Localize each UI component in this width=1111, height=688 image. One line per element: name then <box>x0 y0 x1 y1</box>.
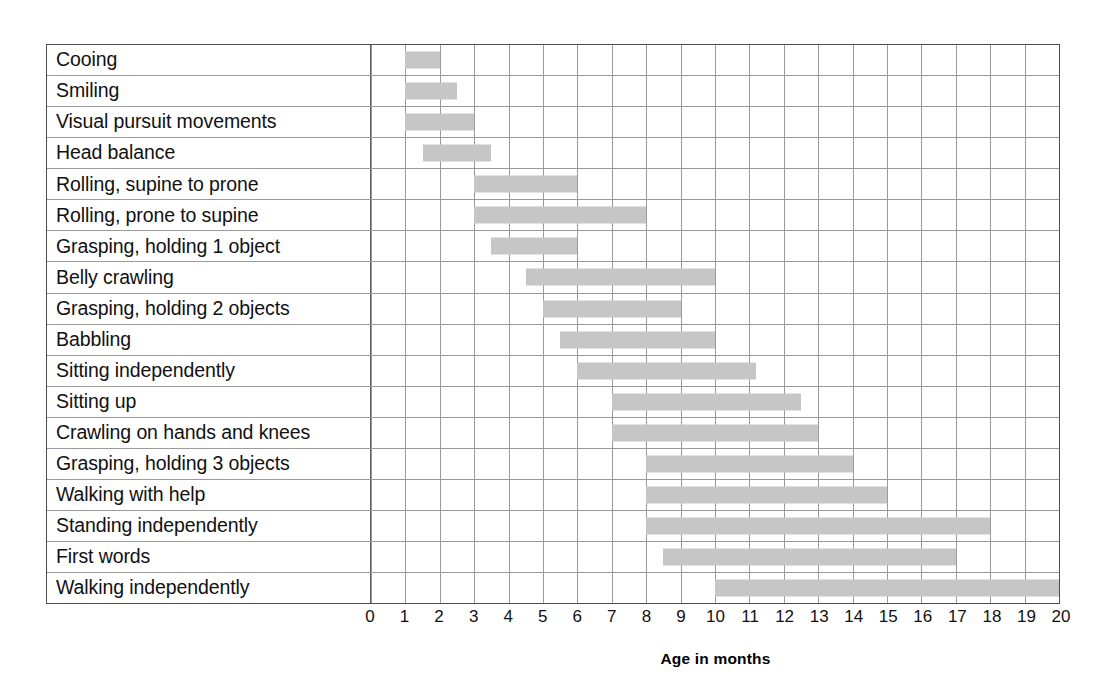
gridline <box>681 45 682 75</box>
gridline <box>784 45 785 75</box>
gridline <box>887 325 888 355</box>
milestone-row: Grasping, holding 3 objects <box>47 449 1059 480</box>
gridline <box>749 294 750 324</box>
gridline <box>921 138 922 168</box>
gridline <box>405 294 406 324</box>
gridline <box>646 107 647 137</box>
gridline <box>474 76 475 106</box>
gridline <box>956 231 957 261</box>
gridline <box>371 262 372 292</box>
milestone-track <box>371 76 1059 106</box>
gridline <box>784 325 785 355</box>
gridline <box>405 262 406 292</box>
gridline <box>681 76 682 106</box>
gridline <box>887 262 888 292</box>
milestone-label: Walking with help <box>47 480 371 510</box>
gridline <box>956 387 957 417</box>
gridline <box>543 573 544 603</box>
gridline <box>474 262 475 292</box>
gridline <box>1025 294 1026 324</box>
gridline <box>474 542 475 572</box>
milestone-track <box>371 231 1059 261</box>
gridline <box>612 449 613 479</box>
gridline <box>612 573 613 603</box>
gridline <box>543 138 544 168</box>
gridline <box>405 573 406 603</box>
gridline <box>853 45 854 75</box>
gridline <box>887 294 888 324</box>
gridline <box>543 107 544 137</box>
gridline <box>749 200 750 230</box>
gridline <box>749 231 750 261</box>
gridline <box>715 262 716 292</box>
gridline <box>577 480 578 510</box>
gridline <box>853 231 854 261</box>
chart-rows: CooingSmilingVisual pursuit movementsHea… <box>47 45 1059 603</box>
milestone-track <box>371 449 1059 479</box>
gridline <box>371 76 372 106</box>
gridline <box>405 356 406 386</box>
gridline <box>990 294 991 324</box>
milestone-row: Rolling, supine to prone <box>47 169 1059 200</box>
gridline <box>956 262 957 292</box>
gridline <box>956 138 957 168</box>
gridline <box>1025 138 1026 168</box>
gridline <box>474 387 475 417</box>
x-tick-label: 15 <box>879 608 898 625</box>
gridline <box>818 107 819 137</box>
milestone-label: Grasping, holding 2 objects <box>47 294 371 324</box>
gridline <box>371 138 372 168</box>
gridline <box>853 262 854 292</box>
gridline <box>405 325 406 355</box>
gridline <box>1025 231 1026 261</box>
gridline <box>784 262 785 292</box>
gridline <box>990 200 991 230</box>
gridline <box>405 231 406 261</box>
gridline <box>1025 511 1026 541</box>
x-tick-label: 20 <box>1052 608 1071 625</box>
gridline <box>715 169 716 199</box>
gridline <box>887 231 888 261</box>
gridline <box>853 418 854 448</box>
gridline <box>784 231 785 261</box>
milestone-label: Crawling on hands and knees <box>47 418 371 448</box>
gridline <box>818 200 819 230</box>
gridline <box>921 294 922 324</box>
gridline <box>474 418 475 448</box>
gridline <box>371 418 372 448</box>
gridline <box>612 169 613 199</box>
milestone-row: Belly crawling <box>47 262 1059 293</box>
gridline <box>440 449 441 479</box>
gridline <box>543 511 544 541</box>
gridline <box>577 138 578 168</box>
gridline <box>749 107 750 137</box>
gridline <box>1025 449 1026 479</box>
gridline <box>921 45 922 75</box>
x-tick-label: 4 <box>503 608 512 625</box>
gridline <box>371 169 372 199</box>
gridline <box>715 294 716 324</box>
gridline <box>990 76 991 106</box>
gridline <box>646 573 647 603</box>
gridline <box>577 45 578 75</box>
gridline <box>577 231 578 261</box>
milestone-track <box>371 418 1059 448</box>
x-tick-label: 1 <box>400 608 409 625</box>
gridline <box>921 231 922 261</box>
gridline <box>474 325 475 355</box>
x-tick-label: 18 <box>982 608 1001 625</box>
gridline <box>474 480 475 510</box>
milestone-label: Head balance <box>47 138 371 168</box>
gridline <box>474 107 475 137</box>
gridline <box>921 325 922 355</box>
gridline <box>509 76 510 106</box>
milestone-bar <box>405 83 457 100</box>
gridline <box>440 480 441 510</box>
gridline <box>371 231 372 261</box>
gridline <box>474 45 475 75</box>
gridline <box>921 169 922 199</box>
gridline <box>405 138 406 168</box>
milestone-bar <box>646 517 990 534</box>
gridline <box>509 45 510 75</box>
gridline <box>990 262 991 292</box>
